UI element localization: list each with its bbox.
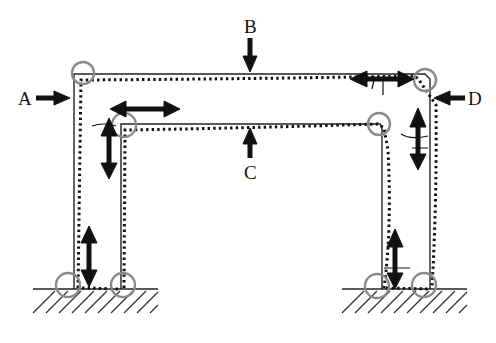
ground-right <box>342 289 467 313</box>
label-c: C <box>244 162 257 183</box>
label-a: A <box>18 88 32 109</box>
joint-outer-top-left <box>72 62 94 84</box>
joint-inner-base-right <box>365 274 389 298</box>
joint-outer-top-right <box>414 69 436 91</box>
label-d: D <box>468 88 482 109</box>
double-arrow-horizontal-left <box>110 101 180 117</box>
ground-left <box>33 289 158 313</box>
joint-outer-base-left <box>56 273 80 297</box>
double-arrow-vertical-left-base <box>81 226 97 287</box>
load-arrow-c <box>243 128 257 158</box>
label-b: B <box>244 16 257 37</box>
double-arrow-vertical-right-upper <box>401 108 428 170</box>
load-arrow-d <box>434 91 465 105</box>
inner-frame-deformed <box>82 124 428 289</box>
double-arrow-vertical-left-upper <box>92 118 117 179</box>
load-arrow-a <box>36 91 70 105</box>
frame-diagram: A B C D <box>0 0 496 343</box>
load-arrow-b <box>243 38 257 72</box>
